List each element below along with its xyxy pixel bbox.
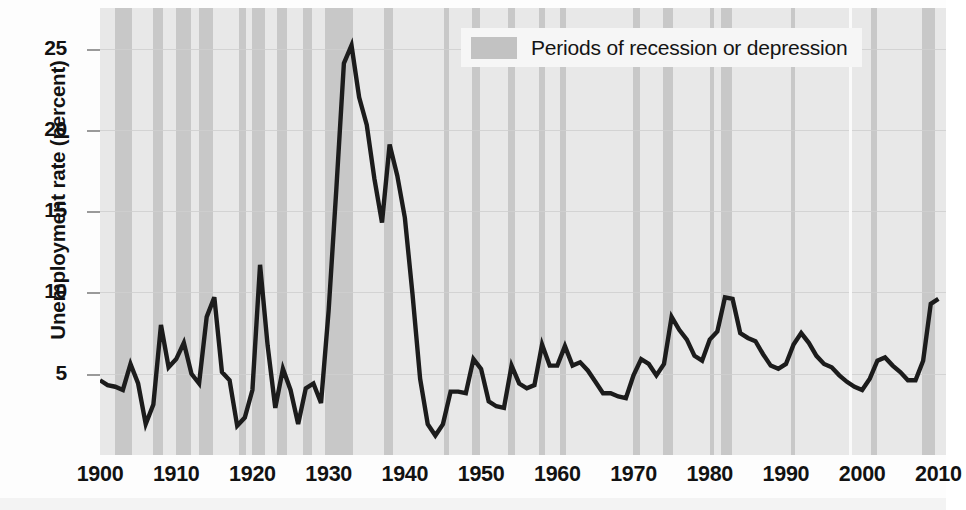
x-tick-label: 1920 (212, 462, 292, 487)
y-tick-label: 25 (21, 36, 67, 60)
y-tick-label: 15 (21, 198, 67, 222)
x-tick-label: 1910 (136, 462, 216, 487)
y-tick-label: 20 (21, 117, 67, 141)
x-tick-label: 1950 (441, 462, 521, 487)
y-tick-label: 5 (21, 361, 67, 385)
x-tick-label: 2010 (898, 462, 966, 487)
x-tick-label: 1960 (517, 462, 597, 487)
x-tick-label: 1930 (289, 462, 369, 487)
unemployment-line-series (100, 8, 946, 455)
plot-area (100, 8, 946, 455)
y-tick-mark (87, 211, 100, 213)
y-tick-mark (87, 130, 100, 132)
y-tick-label: 10 (21, 279, 67, 303)
y-tick-mark (87, 292, 100, 294)
x-tick-label: 1990 (746, 462, 826, 487)
x-tick-label: 1980 (670, 462, 750, 487)
legend: Periods of recession or depression (461, 28, 862, 67)
legend-label-recession: Periods of recession or depression (531, 36, 848, 60)
y-tick-mark (87, 49, 100, 51)
x-tick-label: 1940 (365, 462, 445, 487)
x-tick-label: 1900 (60, 462, 140, 487)
y-tick-mark (87, 374, 100, 376)
legend-swatch-recession (471, 37, 517, 59)
x-tick-label: 1970 (594, 462, 674, 487)
scan-edge-artifact (0, 498, 946, 510)
x-tick-label: 2000 (822, 462, 902, 487)
